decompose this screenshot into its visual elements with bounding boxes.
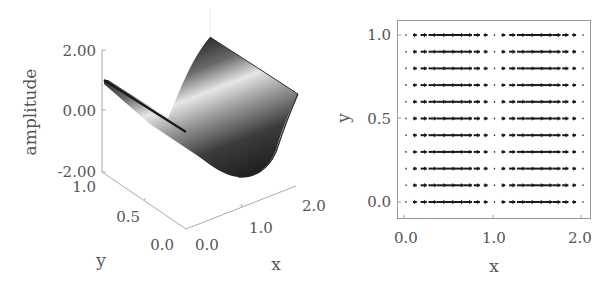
arrow-head (414, 50, 417, 54)
arrow-head (522, 50, 525, 54)
arrow-head (566, 150, 569, 154)
arrow-head (502, 116, 505, 120)
arrow-head (549, 116, 552, 120)
arrow-head (558, 200, 561, 204)
arrow-head (485, 183, 488, 187)
arrow-head (477, 100, 480, 104)
y-tick-label: 0.0 (150, 236, 174, 254)
arrow-head (512, 33, 515, 37)
z-axis-label: amplitude (20, 69, 40, 156)
arrow-head (502, 66, 505, 70)
arrow-head (424, 50, 427, 54)
arrow-head (502, 50, 505, 54)
arrow-head (434, 116, 437, 120)
arrow-head (566, 66, 569, 70)
arrow-head (485, 116, 488, 120)
arrow-head (573, 100, 576, 104)
arrow-head (485, 100, 488, 104)
arrow-head (434, 33, 437, 37)
arrow-head (469, 33, 472, 37)
arrow-head (573, 33, 576, 37)
arrow-head (549, 50, 552, 54)
arrow-head (477, 50, 480, 54)
arrow-head (469, 133, 472, 137)
arrow-head (424, 33, 427, 37)
arrow-head (558, 166, 561, 170)
arrow-head (414, 100, 417, 104)
arrow-head (414, 200, 417, 204)
arrow-head (502, 133, 505, 137)
arrow-head (477, 150, 480, 154)
arrow-head (573, 66, 576, 70)
arrow-head (566, 33, 569, 37)
arrow-head (485, 150, 488, 154)
arrow-head (477, 166, 480, 170)
y-tick-label: 1.0 (72, 178, 96, 196)
arrow-head (461, 66, 464, 70)
arrow-head (414, 83, 417, 87)
arrow-head (424, 100, 427, 104)
arrow-head (485, 33, 488, 37)
arrow-head (461, 50, 464, 54)
arrow-head (414, 116, 417, 120)
arrow-head (485, 66, 488, 70)
arrow-head (424, 116, 427, 120)
arrow-head (434, 50, 437, 54)
arrow-head (414, 33, 417, 37)
arrow-head (549, 200, 552, 204)
arrow-head (461, 116, 464, 120)
arrow-head (522, 66, 525, 70)
arrow-field (405, 33, 583, 204)
arrow-head (469, 200, 472, 204)
arrow-head (566, 183, 569, 187)
x-axis-label: x (271, 254, 281, 274)
arrow-head (522, 183, 525, 187)
arrow-head (566, 116, 569, 120)
arrow-head (477, 133, 480, 137)
arrow-head (434, 83, 437, 87)
arrow-head (549, 66, 552, 70)
arrow-head (549, 33, 552, 37)
arrow-head (573, 200, 576, 204)
arrow-head (522, 200, 525, 204)
arrow-head (549, 100, 552, 104)
arrow-head (434, 133, 437, 137)
arrow-head (558, 50, 561, 54)
arrow-head (566, 83, 569, 87)
quiver-plot: 1.0 0.5 0.0 y 0.0 1.0 2.0 x (333, 21, 592, 277)
x-tick-label: 0.0 (394, 229, 418, 247)
arrow-head (566, 166, 569, 170)
arrow-head (549, 83, 552, 87)
arrow-head (512, 150, 515, 154)
arrow-head (424, 200, 427, 204)
arrow-head (477, 33, 480, 37)
y-tick-label: 0.0 (367, 193, 391, 211)
surface-plot-3d: 2.00 0.00 -2.00 amplitude 1.0 0.5 0.0 y … (20, 8, 326, 274)
arrow-head (414, 66, 417, 70)
arrow-head (461, 83, 464, 87)
y-tick (144, 198, 146, 200)
arrow-head (558, 183, 561, 187)
arrow-head (469, 50, 472, 54)
arrow-head (469, 183, 472, 187)
arrow-head (502, 33, 505, 37)
y-axis-line (102, 172, 186, 229)
arrow-head (434, 150, 437, 154)
z-tick-label: 2.00 (63, 42, 96, 60)
arrow-head (549, 183, 552, 187)
z-tick-label: 0.00 (63, 102, 96, 120)
x-tick-label: 1.0 (249, 219, 273, 237)
arrow-head (558, 66, 561, 70)
arrow-head (502, 100, 505, 104)
arrow-head (502, 150, 505, 154)
arrow-head (512, 133, 515, 137)
arrow-head (549, 150, 552, 154)
arrow-head (549, 133, 552, 137)
arrow-head (424, 166, 427, 170)
arrow-head (566, 100, 569, 104)
arrow-head (512, 66, 515, 70)
arrow-head (566, 133, 569, 137)
y-axis-label: y (333, 113, 353, 124)
arrow-head (573, 166, 576, 170)
arrow-head (558, 83, 561, 87)
